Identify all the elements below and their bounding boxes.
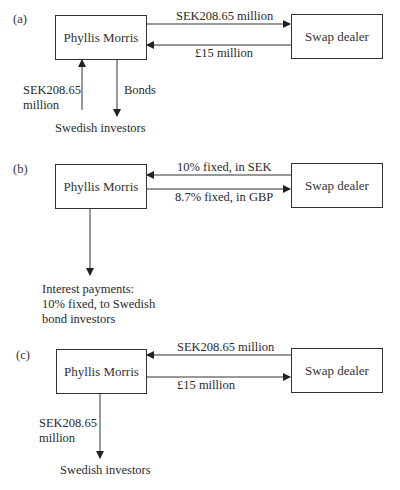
- phyllis-morris-label: Phyllis Morris: [64, 30, 139, 46]
- phyllis-morris-box-a: Phyllis Morris: [55, 15, 147, 60]
- top-arrow-label-a: SEK208.65 million: [176, 9, 273, 23]
- top-arrow-label-b: 10% fixed, in SEK: [177, 160, 271, 174]
- down-arrow-label-line2-c: million: [39, 431, 75, 445]
- swedish-investors-a: Swedish investors: [55, 121, 146, 135]
- interest-text-line3-b: bond investors: [42, 312, 115, 326]
- swap-dealer-box-c: Swap dealer: [291, 348, 383, 393]
- interest-text-line1-b: Interest payments:: [42, 282, 134, 296]
- swap-dealer-label: Swap dealer: [305, 178, 369, 194]
- phyllis-morris-label: Phyllis Morris: [64, 364, 139, 380]
- swap-dealer-label: Swap dealer: [305, 29, 369, 45]
- phyllis-morris-label: Phyllis Morris: [64, 179, 139, 195]
- phyllis-morris-box-c: Phyllis Morris: [56, 349, 147, 394]
- swap-dealer-box-b: Swap dealer: [291, 163, 383, 208]
- bottom-arrow-label-b: 8.7% fixed, in GBP: [175, 190, 273, 204]
- bottom-arrow-label-a: £15 million: [195, 46, 253, 60]
- up-arrow-label-line2-a: million: [23, 98, 59, 112]
- interest-text-line2-b: 10% fixed, to Swedish: [42, 297, 155, 311]
- up-arrow-label-line1-a: SEK208.65: [23, 83, 81, 97]
- bottom-arrow-label-c: £15 million: [177, 378, 235, 392]
- panel-tag-a: (a): [13, 12, 27, 27]
- top-arrow-label-c: SEK208.65 million: [177, 340, 274, 354]
- swap-dealer-label: Swap dealer: [305, 363, 369, 379]
- panel-tag-c: (c): [16, 348, 30, 363]
- phyllis-morris-box-b: Phyllis Morris: [55, 164, 147, 209]
- bonds-label-a: Bonds: [124, 83, 156, 97]
- down-arrow-label-line1-c: SEK208.65: [39, 416, 97, 430]
- panel-tag-b: (b): [13, 162, 28, 177]
- swedish-investors-c: Swedish investors: [60, 463, 151, 477]
- swap-dealer-box-a: Swap dealer: [291, 14, 383, 59]
